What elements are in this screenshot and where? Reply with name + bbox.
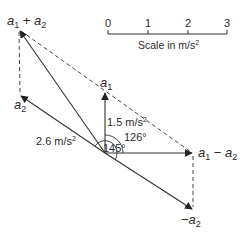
label-a1-plus-a2: a1 + a2 — [7, 13, 46, 30]
label-a1: a1 — [100, 75, 112, 92]
label-a1-minus-a2: a1 − a2 — [198, 145, 237, 162]
scale-label: Scale in m/s2 — [138, 39, 199, 51]
scale-bar: 0 1 2 3 Scale in m/s2 — [105, 17, 230, 51]
label-angle-145: 145° — [103, 142, 126, 154]
label-a2-magnitude: 2.6 m/s2 — [36, 135, 76, 147]
scale-tick-2: 2 — [185, 17, 191, 29]
vector-neg-a2 — [105, 153, 192, 209]
vector-diagram: 0 1 2 3 Scale in m/s2 a1 + a2 a1 a2 1.5 … — [0, 0, 240, 239]
scale-tick-1: 1 — [145, 17, 151, 29]
scale-tick-0: 0 — [105, 17, 111, 29]
label-angle-126: 126° — [124, 131, 147, 143]
angle-arc-145-tail — [115, 153, 117, 160]
dashed-sum-to-a2 — [19, 32, 20, 93]
label-neg-a2: −a2 — [181, 212, 201, 229]
scale-tick-3: 3 — [224, 17, 230, 29]
label-a1-magnitude: 1.5 m/s2 — [107, 116, 147, 128]
label-a2: a2 — [14, 97, 26, 114]
